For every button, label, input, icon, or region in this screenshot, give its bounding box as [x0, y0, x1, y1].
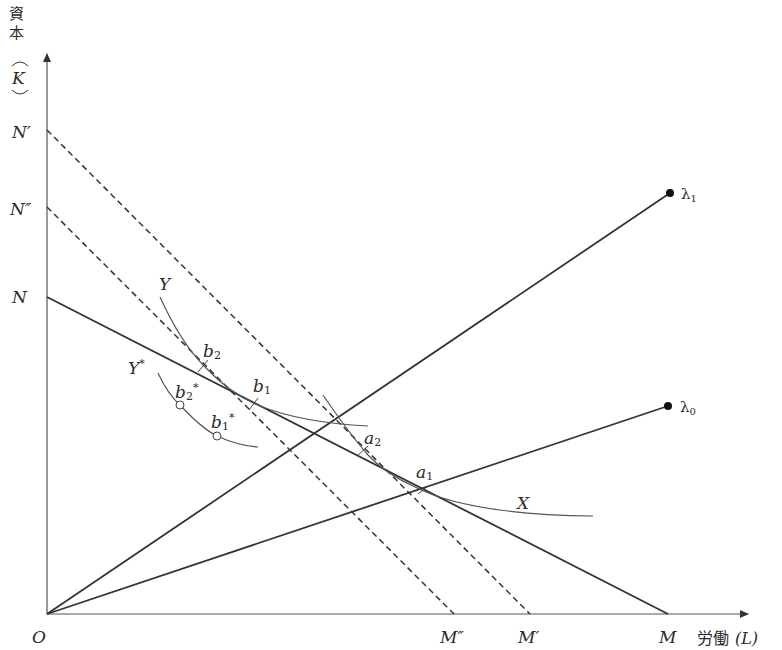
label-M: M	[658, 627, 677, 647]
point-b1-star	[213, 432, 221, 440]
y-axis-label-jp-2: 本	[9, 24, 24, 42]
point-b2-star-label: b2*	[175, 381, 199, 403]
point-b1-label: b1	[253, 376, 271, 397]
isoquant-Y-star	[158, 373, 258, 447]
isoquant-X	[323, 395, 593, 516]
paren-top-icon	[12, 62, 28, 66]
ray-lambda1-endpoint	[666, 189, 674, 197]
point-b2-label: b2	[203, 341, 221, 362]
diagram-canvas: 資 本 K 労働 (L) O N′ N″ N M″ M′ M λ1 λ0 X Y…	[0, 0, 782, 650]
paren-bottom-icon	[12, 90, 28, 94]
isocost-line-N-prime-M-prime	[47, 130, 530, 614]
ray-lambda1	[47, 193, 670, 614]
ray-lambda1-label: λ1	[681, 185, 697, 204]
point-a1-label: a1	[416, 462, 433, 483]
point-b1-star-label: b1*	[211, 411, 235, 433]
isoquant-Y-label: Y	[159, 274, 172, 294]
label-M-double-prime: M″	[439, 627, 464, 647]
origin-label: O	[32, 627, 46, 647]
y-axis-symbol: K	[11, 68, 26, 88]
x-axis-symbol: (L)	[735, 629, 758, 648]
label-N-prime: N′	[11, 122, 31, 142]
isoquant-Y	[160, 297, 368, 426]
label-N: N	[11, 287, 28, 307]
isoquant-Y-star-label: Y*	[128, 357, 145, 378]
ray-lambda0-label: λ0	[680, 398, 696, 417]
point-b2-star	[176, 401, 184, 409]
x-axis-label-jp: 労働	[697, 629, 729, 648]
point-a2-label: a2	[364, 428, 381, 449]
isoquant-X-label: X	[515, 493, 530, 513]
y-axis-label-jp-1: 資	[9, 5, 24, 23]
ray-lambda0-endpoint	[664, 402, 672, 410]
isocost-line-N-double-prime-M-double-prime	[47, 207, 454, 614]
label-M-prime: M′	[517, 627, 539, 647]
ray-lambda0	[47, 406, 668, 614]
label-N-double-prime: N″	[9, 199, 32, 219]
